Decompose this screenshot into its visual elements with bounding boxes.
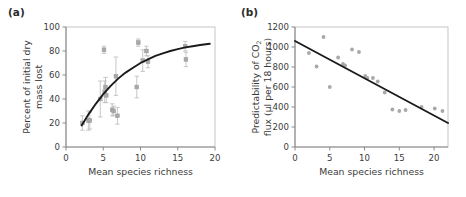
y-axis-title-line: flux (µl per 18 hours): [262, 38, 273, 136]
data-point: [112, 109, 116, 113]
data-point: [397, 109, 401, 113]
data-point: [376, 80, 380, 84]
data-point: [88, 119, 92, 123]
data-point: [104, 94, 108, 98]
y-axis-title-line: Predictability of CO2: [250, 40, 262, 133]
data-point: [315, 65, 319, 69]
figure-container: (a) 02040608010005101520Mean species ric…: [0, 0, 466, 197]
data-point: [145, 49, 149, 53]
x-tick-label: 10: [135, 153, 146, 163]
panel-a: (a) 02040608010005101520Mean species ric…: [0, 0, 233, 197]
data-point: [371, 76, 375, 80]
data-point: [350, 48, 354, 52]
data-point: [441, 109, 445, 113]
y-tick-label: 800: [273, 62, 289, 72]
y-axis-title-line: mass lost: [33, 65, 44, 110]
y-tick-label: 1200: [267, 22, 289, 32]
x-tick-label: 15: [172, 153, 183, 163]
data-point: [135, 85, 139, 89]
data-point: [322, 35, 326, 39]
data-point: [307, 51, 311, 55]
x-tick-label: 20: [210, 153, 221, 163]
y-tick-label: 400: [273, 102, 289, 112]
x-tick-label: 0: [63, 153, 68, 163]
data-point: [433, 107, 437, 111]
data-point: [357, 50, 361, 54]
x-axis-title: Mean species richness: [319, 166, 424, 177]
panel-b-plot: 02004006008001000120005101520Mean specie…: [233, 0, 466, 197]
x-tick-label: 15: [394, 153, 405, 163]
data-point: [184, 58, 188, 62]
y-tick-label: 200: [273, 122, 289, 132]
x-tick-label: 20: [429, 153, 440, 163]
y-axis-title-line: Percent of initial dry: [21, 40, 32, 134]
y-tick-label: 80: [49, 46, 60, 56]
y-tick-label: 100: [44, 22, 60, 32]
data-point: [383, 91, 387, 95]
x-tick-label: 10: [359, 153, 370, 163]
data-point: [116, 114, 120, 118]
data-point: [136, 41, 140, 45]
y-tick-label: 40: [49, 94, 60, 104]
y-tick-label: 0: [55, 142, 60, 152]
x-tick-label: 5: [101, 153, 106, 163]
data-point: [390, 108, 394, 112]
fit-line: [295, 41, 448, 123]
panel-a-plot: 02040608010005101520Mean species richnes…: [0, 0, 233, 197]
data-point: [114, 74, 118, 78]
data-point: [328, 85, 332, 89]
data-point: [102, 48, 106, 52]
x-tick-label: 5: [327, 153, 332, 163]
y-tick-label: 0: [284, 142, 289, 152]
y-tick-label: 600: [273, 82, 289, 92]
panel-b: (b) 02004006008001000120005101520Mean sp…: [233, 0, 466, 197]
data-point: [104, 85, 108, 89]
y-tick-label: 60: [49, 70, 60, 80]
x-axis-title: Mean species richness: [88, 166, 193, 177]
data-point: [336, 56, 340, 60]
data-point: [404, 108, 408, 112]
y-tick-label: 20: [49, 118, 60, 128]
x-tick-label: 0: [292, 153, 297, 163]
